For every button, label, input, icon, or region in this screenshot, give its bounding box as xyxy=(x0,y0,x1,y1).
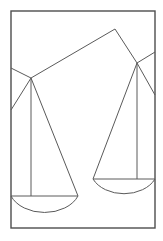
figure-root xyxy=(0,0,163,241)
balance-scale-drawing xyxy=(0,0,163,241)
drawing-background xyxy=(0,0,163,241)
